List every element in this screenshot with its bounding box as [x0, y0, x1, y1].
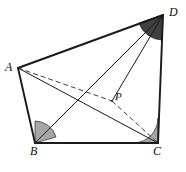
point-marker-P — [111, 100, 113, 102]
diagonal-BD — [35, 15, 163, 143]
geometry-figure: A B C D P — [0, 0, 186, 172]
edge-AB — [18, 68, 35, 143]
vertex-label-d: D — [169, 6, 178, 18]
segment-AP — [18, 68, 112, 101]
vertex-label-c: C — [153, 145, 161, 157]
point-label-p: P — [115, 91, 122, 102]
edge-AD — [18, 15, 163, 68]
vertex-label-b: B — [30, 145, 37, 157]
vertex-label-a: A — [5, 61, 12, 73]
